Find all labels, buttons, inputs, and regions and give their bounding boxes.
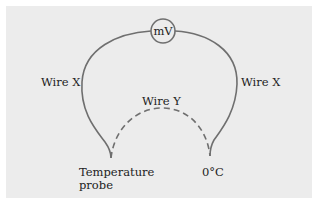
reference-junction-label: 0°C bbox=[202, 166, 224, 179]
wire-y-label: Wire Y bbox=[142, 95, 181, 108]
wire-y bbox=[111, 108, 210, 158]
wire-x-right bbox=[175, 31, 237, 156]
probe-label-line2: probe bbox=[79, 179, 113, 192]
wire-x-left-label: Wire X bbox=[41, 76, 80, 89]
meter-label: mV bbox=[153, 24, 173, 38]
wire-x-left bbox=[82, 31, 151, 158]
wire-x-right-label: Wire X bbox=[241, 76, 280, 89]
